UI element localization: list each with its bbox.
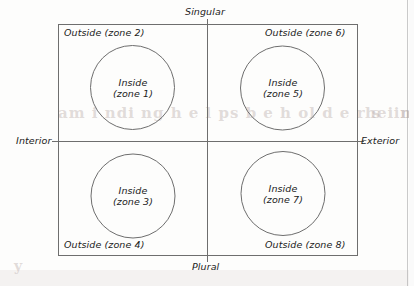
axis-label-top-singular: Singular	[185, 7, 225, 18]
inside-label-upper-right-line2: (zone 5)	[248, 89, 318, 100]
outside-label-upper-right: Outside (zone 6)	[265, 28, 345, 39]
scanned-page: am i ndi ng h e l ps b e h ol d e r s i …	[0, 0, 414, 286]
inside-label-lower-right: Inside (zone 7)	[248, 184, 318, 206]
inside-label-upper-left: Inside (zone 1)	[98, 78, 168, 100]
inside-label-lower-right-line2: (zone 7)	[248, 195, 318, 206]
axis-label-bottom-plural: Plural	[192, 262, 219, 273]
outside-label-lower-right: Outside (zone 8)	[265, 240, 345, 251]
inside-label-lower-left-line2: (zone 3)	[98, 197, 168, 208]
inside-label-upper-right: Inside (zone 5)	[248, 78, 318, 100]
axis-label-right-exterior: Exterior	[361, 136, 399, 147]
inside-label-lower-left: Inside (zone 3)	[98, 186, 168, 208]
aqal-quadrant-diagram	[0, 0, 414, 286]
outside-label-upper-left: Outside (zone 2)	[64, 28, 144, 39]
inside-label-upper-left-line2: (zone 1)	[98, 89, 168, 100]
axis-label-left-interior: Interior	[16, 136, 51, 147]
outside-label-lower-left: Outside (zone 4)	[64, 240, 144, 251]
